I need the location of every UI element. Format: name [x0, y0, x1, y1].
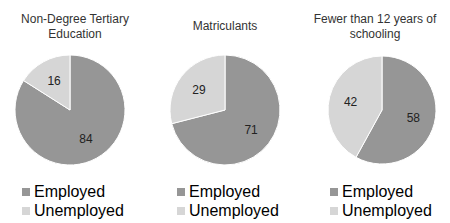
legend-label: Unemployed	[342, 202, 432, 220]
data-label: 84	[79, 132, 93, 146]
legend-item-unemployed: Unemployed	[22, 202, 124, 220]
legend-label: Employed	[342, 183, 413, 201]
legend-item-unemployed: Unemployed	[177, 202, 279, 220]
data-label: 16	[47, 74, 61, 88]
data-label: 29	[192, 83, 206, 97]
legend-item-employed: Employed	[330, 183, 413, 201]
legend-item-unemployed: Unemployed	[330, 202, 432, 220]
legend-swatch	[330, 207, 338, 215]
data-label: 42	[344, 95, 358, 109]
legend-swatch	[177, 188, 185, 196]
legend-swatch	[22, 188, 30, 196]
legend-swatch	[177, 207, 185, 215]
pie-panel-non-degree: Non-Degree TertiaryEducation 8416Employe…	[0, 0, 150, 223]
legend-item-employed: Employed	[177, 183, 260, 201]
legend-label: Unemployed	[34, 202, 124, 220]
chart-figure: Non-Degree TertiaryEducation 8416Employe…	[0, 0, 450, 223]
legend-item-employed: Employed	[22, 183, 105, 201]
pie-panel-matriculants: Matriculants 7129EmployedUnemployed	[150, 0, 300, 223]
legend-swatch	[22, 207, 30, 215]
legend-swatch	[330, 188, 338, 196]
data-label: 58	[407, 111, 421, 125]
data-label: 71	[244, 123, 258, 137]
pie-panel-fewer-than-12: Fewer than 12 years ofschooling 5842Empl…	[300, 0, 450, 223]
legend-label: Unemployed	[189, 202, 279, 220]
legend-label: Employed	[34, 183, 105, 201]
legend-label: Employed	[189, 183, 260, 201]
